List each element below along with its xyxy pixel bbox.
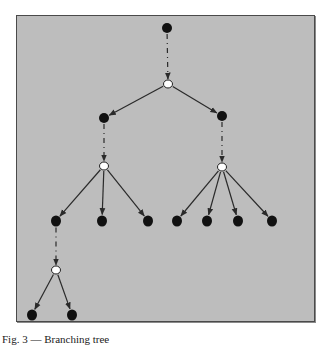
filled-node-lL1 <box>51 216 61 227</box>
edge-bL-lL2 <box>102 171 104 215</box>
filled-node-lR3 <box>233 216 243 227</box>
edge-root-b1 <box>167 34 168 79</box>
filled-node-l1 <box>99 113 109 123</box>
filled-node-lR4 <box>267 216 277 227</box>
edge-bR-lR3 <box>224 172 237 215</box>
filled-node-leaf1 <box>27 310 37 321</box>
edge-b1-r1 <box>173 87 217 113</box>
edge-b1-l1 <box>109 86 163 115</box>
filled-node-lL3 <box>143 216 153 227</box>
nodes-group <box>27 23 277 321</box>
filled-node-r1 <box>217 111 227 121</box>
filled-node-lR1 <box>172 216 182 227</box>
filled-node-root <box>162 23 172 33</box>
open-node-b3 <box>52 266 61 274</box>
filled-node-lL2 <box>97 216 107 227</box>
edge-bL-lL3 <box>107 170 144 216</box>
figure-caption: Fig. 3 — Branching tree <box>2 333 109 345</box>
filled-node-lR2 <box>202 216 212 227</box>
filled-node-leaf2 <box>67 310 77 321</box>
edge-bR-lR4 <box>226 171 268 217</box>
edge-b3-leaf1 <box>35 274 54 309</box>
edge-bR-lR2 <box>209 172 221 215</box>
open-node-bL <box>100 162 109 170</box>
edge-bR-lR1 <box>181 171 219 216</box>
edges-group <box>35 34 268 309</box>
open-node-bR <box>218 163 227 171</box>
open-node-b1 <box>164 80 173 88</box>
edge-bL-lL1 <box>60 170 100 216</box>
edge-b3-leaf2 <box>58 275 70 309</box>
